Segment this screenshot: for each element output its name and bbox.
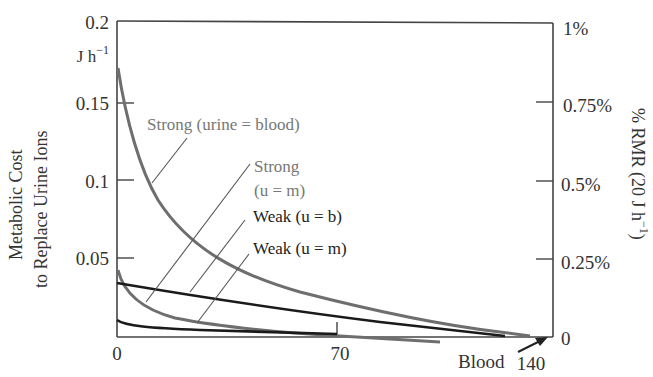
plot-frame (117, 21, 553, 337)
left-axis-ticks (117, 103, 134, 258)
svg-text:Metabolic Cost: Metabolic Cost (6, 150, 26, 261)
label-strong-u-m-line2: (u = m) (254, 181, 305, 200)
y2-tick-0.75: 0.75% (563, 95, 612, 116)
y-tick-0.15: 0.15 (76, 93, 109, 114)
x-tick-140: 140 (517, 353, 546, 374)
label-strong-u-m-line1: Strong (254, 157, 300, 176)
y2-tick-0.25: 0.25% (561, 252, 610, 273)
y-axis-title: Metabolic Cost to Replace Urine Ions (6, 131, 51, 288)
label-strong-urine-blood: Strong (urine = blood) (147, 115, 300, 134)
y-tick-0.1: 0.1 (85, 171, 109, 192)
svg-text:% RMR (20 J h−1): % RMR (20 J h−1) (627, 108, 651, 240)
blood-arrow-icon (518, 337, 548, 352)
chart: 0.2 J h−1 0.15 0.1 0.05 Metabolic Cost t… (0, 0, 653, 377)
x-tick-70: 70 (331, 343, 350, 364)
right-axis-ticks (536, 102, 553, 259)
svg-text:to Replace Urine Ions: to Replace Urine Ions (31, 131, 51, 288)
label-weak-u-m: Weak (u = m) (253, 239, 347, 258)
y2-tick-0.5: 0.5% (561, 174, 601, 195)
series-strong-urine-blood (118, 68, 530, 336)
x-tick-0: 0 (112, 343, 122, 364)
y2-tick-0: 0 (561, 328, 571, 349)
y-units: J h−1 (77, 43, 109, 66)
y-tick-0.2: 0.2 (85, 12, 109, 33)
blood-annotation: Blood (458, 351, 505, 372)
y-tick-0.05: 0.05 (76, 248, 109, 269)
label-weak-u-b: Weak (u = b) (253, 207, 342, 226)
y2-tick-1: 1% (563, 18, 589, 39)
y2-axis-title: % RMR (20 J h−1) (627, 108, 651, 240)
